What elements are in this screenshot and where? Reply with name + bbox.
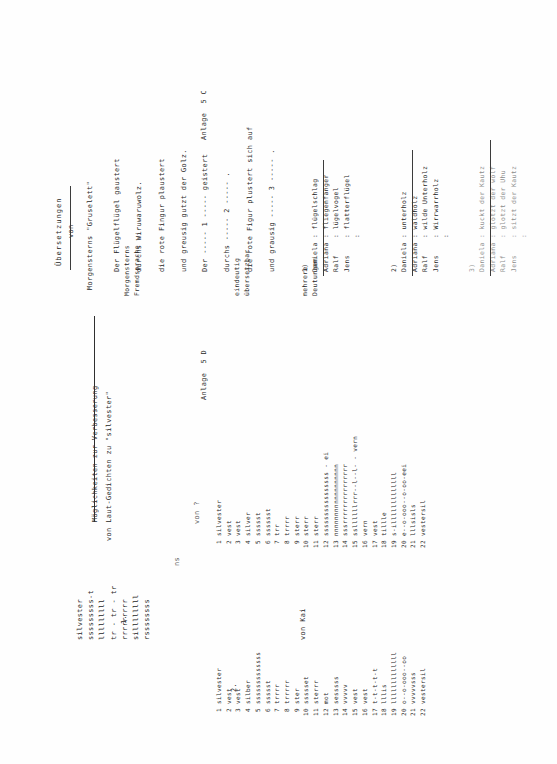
left-title-line1: Möglichkeiten zur Verbesserung <box>90 386 101 522</box>
translation-group-1-rule <box>323 160 324 276</box>
right-header-rule <box>70 186 71 270</box>
translation-group-2: 2) Daniela : unterholz Adriana : waldhol… <box>389 166 451 272</box>
left-title-rule <box>94 316 95 522</box>
right-header-line3: Morgensterns "Gruselett" <box>85 181 96 290</box>
translation-group-1: 1) Daniela : flügelschlag Adriana : flie… <box>300 174 362 272</box>
translation-group-3: 3) Daniela : kuckt der Kautz Adriana : g… <box>467 166 529 272</box>
left-section1-block: silvester sssssssss-t lllllllll tr - tr … <box>75 585 153 640</box>
left-section1-footer-left: ns <box>172 557 183 566</box>
right-header-line2: von <box>66 224 77 238</box>
translation-group-2-rule <box>412 150 413 276</box>
poem-original: Der Flügelflügel gaustert durchs Wiruwar… <box>112 149 190 272</box>
right-header-line1: Übersetzungen <box>53 197 64 266</box>
left-section1-footer-right: von ? <box>192 501 203 524</box>
translation-group-3-rule <box>490 140 491 276</box>
poem-gapped: Der ----- 1 ----- geistert durchs ----- … <box>200 126 278 272</box>
left-section2-list-col2: 1 silvester 2 vest 3 vest 4 silver 5 sss… <box>214 436 428 548</box>
left-title-line2: von Laut-Gedichten zu "silvester" <box>104 391 115 541</box>
left-footer: von Kai <box>298 608 309 640</box>
anlage-label-right: Anlage 5 D <box>199 350 210 400</box>
scanned-page: Anlage 5 C Möglichkeiten zur Verbesserun… <box>0 0 557 764</box>
left-section2-list-col1: 1 silvester 2 vest 3 vest 4 silber 5 sss… <box>214 652 428 716</box>
